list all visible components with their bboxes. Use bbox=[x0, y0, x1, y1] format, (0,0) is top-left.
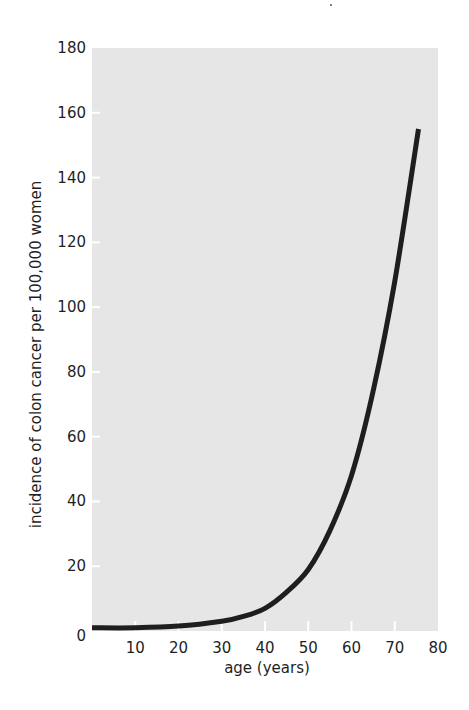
x-tick-label: 30 bbox=[212, 639, 231, 657]
y-tick-label: 100 bbox=[57, 298, 86, 316]
y-tick-label: 20 bbox=[67, 557, 86, 575]
y-tick-label: 140 bbox=[57, 169, 86, 187]
y-axis-title: incidence of colon cancer per 100,000 wo… bbox=[27, 181, 45, 529]
y-tick-label: 80 bbox=[67, 363, 86, 381]
y-tick-label: 0 bbox=[76, 627, 86, 645]
x-tick-label: 60 bbox=[342, 639, 361, 657]
x-tick-label: 50 bbox=[299, 639, 318, 657]
scan-artifact bbox=[330, 4, 332, 6]
y-tick-label: 120 bbox=[57, 233, 86, 251]
y-tick-label: 180 bbox=[57, 39, 86, 57]
x-tick-label: 40 bbox=[255, 639, 274, 657]
x-axis-title: age (years) bbox=[224, 659, 310, 677]
y-tick-label: 40 bbox=[67, 492, 86, 510]
line-chart: 020406080100120140160180 102030405060708… bbox=[0, 0, 469, 710]
y-tick-label: 60 bbox=[67, 428, 86, 446]
x-tick-label: 70 bbox=[385, 639, 404, 657]
y-tick-label: 160 bbox=[57, 104, 86, 122]
x-tick-label: 10 bbox=[126, 639, 145, 657]
x-tick-label: 80 bbox=[428, 639, 447, 657]
x-tick-label: 20 bbox=[169, 639, 188, 657]
